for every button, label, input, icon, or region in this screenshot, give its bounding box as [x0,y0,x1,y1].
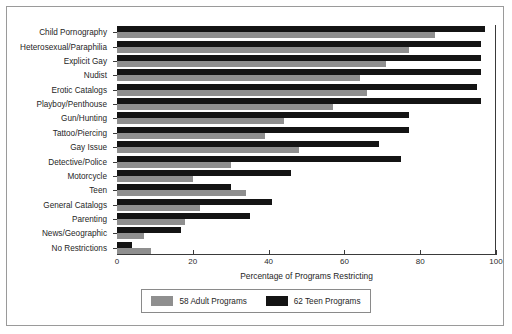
bar-adult [117,61,386,67]
category-label: Erotic Catalogs [51,85,107,94]
category-label: Parenting [72,215,107,224]
bar-adult [117,133,265,139]
category-label: Detective/Police [48,157,107,166]
legend-item-adult: 58 Adult Programs [151,296,246,306]
bar-adult [117,90,367,96]
x-tick-mark [344,250,345,255]
bar-adult [117,248,151,254]
x-axis-title: Percentage of Programs Restricting [117,271,496,281]
y-axis-category-labels: Child PornographyHeterosexual/Paraphilia… [7,25,111,255]
legend-label-teen: 62 Teen Programs [294,297,361,306]
category-label: Motorcycle [67,171,107,180]
bar-adult [117,75,360,81]
category-label: Gun/Hunting [61,114,107,123]
category-label: General Catalogs [43,200,107,209]
x-tick-label: 20 [188,257,197,266]
category-label: Playboy/Penthouse [36,100,107,109]
legend-item-teen: 62 Teen Programs [266,296,361,306]
bar-adult [117,104,333,110]
chart-legend: 58 Adult Programs 62 Teen Programs [141,289,371,313]
category-label: No Restrictions [51,243,107,252]
x-tick-label: 80 [416,257,425,266]
bar-adult [117,190,246,196]
bar-adult [117,176,193,182]
teen-color-swatch [266,296,288,306]
bar-adult [117,205,200,211]
axes: 020406080100 [117,25,496,255]
plot-area: Child PornographyHeterosexual/Paraphilia… [7,7,505,259]
x-tick-mark [269,250,270,255]
x-tick-label: 100 [489,257,502,266]
category-label: Heterosexual/Paraphilia [20,42,107,51]
category-label: News/Geographic [42,229,107,238]
category-label: Explicit Gay [64,56,107,65]
bar-adult [117,47,409,53]
category-label: Teen [89,186,107,195]
x-tick-label: 60 [340,257,349,266]
x-tick-mark [420,250,421,255]
category-label: Gay Issue [70,143,107,152]
x-tick-label: 40 [264,257,273,266]
category-label: Tattoo/Piercing [53,128,107,137]
category-label: Nudist [84,71,107,80]
x-tick-mark [193,250,194,255]
category-label: Child Pornography [39,28,107,37]
bar-adult [117,32,435,38]
bar-adult [117,118,284,124]
adult-color-swatch [151,296,173,306]
x-tick-label: 0 [115,257,119,266]
figure-panel: Child PornographyHeterosexual/Paraphilia… [6,6,504,326]
bar-adult [117,233,144,239]
bar-adult [117,162,231,168]
bar-adult [117,147,299,153]
bar-adult [117,219,185,225]
legend-label-adult: 58 Adult Programs [179,297,246,306]
x-tick-mark [496,250,497,255]
